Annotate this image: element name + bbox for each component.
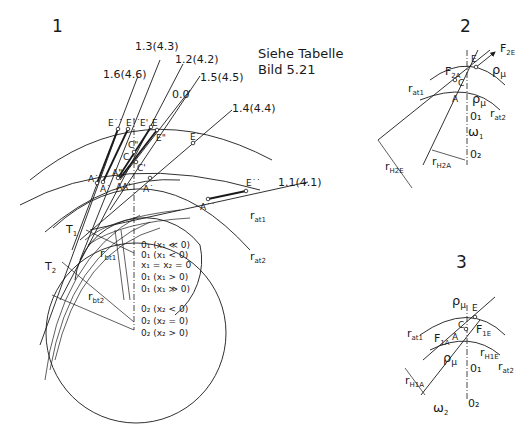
- fig2-O2: 0₂: [470, 148, 481, 161]
- center-label: 0₁ (x₁ < 0): [141, 250, 188, 260]
- figure-3: 3 ρμ ρμ E C A F1E F1A rat1 rat2 rH1E rH1…: [405, 252, 514, 417]
- fig2-dim-rH2A: [432, 150, 465, 160]
- label-1-2: 1.2(4.2): [175, 53, 219, 66]
- center-label: 0₂ (x₂ < 0): [141, 304, 188, 314]
- label-rbt1: rbt1: [100, 247, 116, 262]
- fig2-dim-rH2E: [378, 140, 412, 188]
- flank-2: [50, 222, 150, 370]
- label-1-4: 1.4(4.4): [232, 102, 276, 115]
- figure-1: 1 Siehe Tabelle Bild 5.21: [20, 16, 343, 423]
- label-C: C": [128, 140, 138, 150]
- fig2-rH2E: rH2E: [385, 160, 404, 175]
- label-A: A˙: [100, 184, 111, 194]
- label-A: A˙˙: [200, 202, 215, 212]
- label-E: E": [156, 133, 166, 143]
- center-label: 0₂ (x₂ > 0): [141, 328, 188, 338]
- center-label: 0₂ (x₂ = 0): [141, 316, 188, 326]
- label-A: A': [122, 182, 131, 192]
- fig2-label-A: A: [452, 94, 459, 104]
- fig3-label-E: E: [472, 303, 478, 313]
- label-1-5: 1.5(4.5): [200, 71, 244, 84]
- fig3-omega: ω2: [433, 400, 448, 417]
- line-tangent-T2: [40, 130, 118, 345]
- fig2-rho-1: ρμ: [492, 62, 506, 79]
- fig3-label-A: A: [452, 332, 459, 342]
- note-line-1: Siehe Tabelle: [258, 46, 343, 61]
- label-E: E˙: [190, 132, 200, 142]
- fig3-F1A: F1A: [434, 332, 450, 347]
- fig3-point-E: [473, 315, 477, 319]
- center-labels: 0₁ (x₁ ≪ 0) 0₁ (x₁ < 0) x₁ = x₂ = 0 0₁ (…: [141, 240, 191, 338]
- label-E: E˙˙: [126, 118, 141, 128]
- label-C: C': [137, 163, 146, 173]
- figure-2-number: 2: [460, 16, 471, 36]
- base-circle-2: [46, 243, 226, 423]
- gear-mesh-diagram: 1 Siehe Tabelle Bild 5.21: [0, 0, 532, 432]
- fig2-omega: ω1: [468, 124, 483, 141]
- label-1-3: 1.3(4.3): [135, 40, 179, 53]
- fig2-label-E: E: [471, 54, 477, 64]
- fig3-O2: 0₂: [468, 397, 479, 410]
- label-1-1: 1.1(4.1): [278, 176, 322, 189]
- figure-3-number: 3: [456, 252, 467, 272]
- point-E: [155, 128, 159, 132]
- fig3-rH1A: rH1A: [405, 374, 424, 389]
- fig2-F2E: F2E: [500, 42, 515, 57]
- fig3-point-C: [464, 327, 468, 331]
- point-E: [244, 189, 248, 193]
- fig2-O1: 0₁: [470, 110, 481, 123]
- label-rat2: rat2: [250, 250, 266, 265]
- label-rbt2: rbt2: [88, 290, 104, 305]
- label-A: A": [112, 168, 122, 178]
- label-0-0: 0.0: [172, 88, 190, 101]
- point-C: [132, 150, 136, 154]
- fig2-rat1: rat1: [408, 82, 424, 97]
- center-label: 0₁ (x₁ ≪ 0): [141, 240, 190, 250]
- figure-2: 2 F2E F2A ρμ ρμ E C A rat1 rat2 0₁ 0₂ ω1…: [378, 16, 515, 188]
- fig3-rat1: rat1: [407, 327, 423, 342]
- fig3-rho-2: ρμ: [443, 350, 457, 367]
- label-T2: T2: [44, 260, 56, 275]
- label-E: E˙˙: [108, 118, 123, 128]
- fig3-rho-1: ρμ: [452, 293, 466, 310]
- label-rat1: rat1: [250, 209, 266, 224]
- fig2-rho-2: ρμ: [472, 91, 486, 108]
- fig2-arc-rat2: [420, 92, 500, 110]
- label-T1: T1: [65, 223, 77, 238]
- fig3-O1: 0₁: [470, 362, 481, 375]
- point-A: [206, 197, 210, 201]
- center-label: x₁ = x₂ = 0: [141, 260, 191, 270]
- label-A: A˙: [143, 184, 154, 194]
- label-C: C: [123, 152, 129, 162]
- line-0-0: [120, 90, 190, 180]
- fig2-rH2A: rH2A: [432, 155, 451, 170]
- label-E: E˙˙: [246, 178, 261, 188]
- contact-seg-5: [208, 191, 246, 199]
- point-A: [148, 176, 152, 180]
- fig3-F1E: F1E: [476, 323, 491, 338]
- fig2-rat2: rat2: [490, 107, 506, 122]
- fig3-rH1E: rH1E: [480, 346, 499, 361]
- label-E: E: [152, 118, 158, 128]
- fig3-label-C: C: [458, 320, 464, 330]
- fig3-rat2: rat2: [498, 360, 514, 375]
- label-A: A˙˙: [88, 174, 103, 184]
- fig2-label-C: C: [458, 78, 464, 88]
- figure-1-number: 1: [52, 16, 63, 36]
- fig2-point-E: [474, 65, 478, 69]
- center-label: 0₁ (x₁ ≫ 0): [141, 284, 190, 294]
- label-1-6: 1.6(4.6): [103, 68, 147, 81]
- center-label: 0₁ (x₁ > 0): [141, 272, 188, 282]
- note-line-2: Bild 5.21: [258, 62, 315, 77]
- label-E: E': [140, 118, 148, 128]
